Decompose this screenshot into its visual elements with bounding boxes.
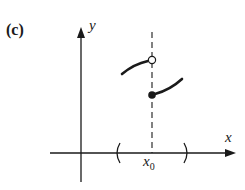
left-curve-branch [122, 61, 148, 74]
right-curve-branch [155, 79, 182, 94]
x0-label: x0 [143, 153, 155, 172]
y-axis-arrow-icon [77, 27, 85, 38]
x0-label-base: x [143, 153, 150, 169]
filled-dot-icon [148, 91, 156, 99]
x-axis-label: x [225, 129, 232, 146]
x0-label-subscript: 0 [150, 161, 155, 172]
y-axis-label: y [89, 17, 96, 34]
open-circle-icon [148, 56, 155, 63]
diagram-canvas [0, 0, 245, 190]
panel-label: (c) [6, 21, 24, 39]
x-axis-arrow-icon [225, 149, 236, 157]
y-axis [77, 27, 85, 182]
